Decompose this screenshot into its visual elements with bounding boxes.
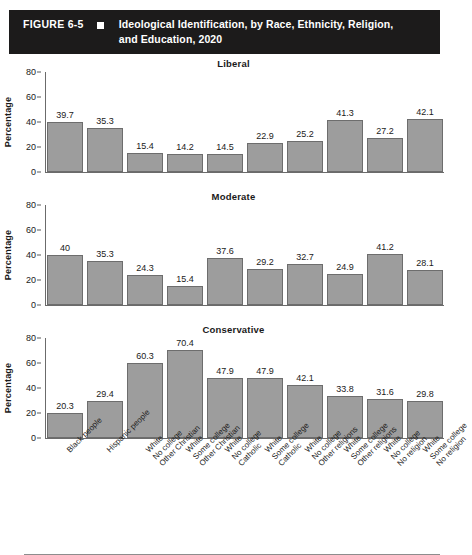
bar-value-label: 24.3 bbox=[136, 263, 154, 273]
bar[interactable] bbox=[127, 153, 163, 172]
y-tick-label: 80 bbox=[26, 200, 36, 210]
figure-title-line-1: Ideological Identification, by Race, Eth… bbox=[119, 17, 393, 32]
bar-value-label: 37.6 bbox=[216, 246, 234, 256]
bar-group: 29.8 bbox=[407, 338, 443, 438]
y-axis-label-liberal: Percentage bbox=[2, 72, 15, 172]
bar[interactable] bbox=[247, 143, 283, 172]
bar-value-label: 70.4 bbox=[176, 338, 194, 348]
bar-value-label: 60.3 bbox=[136, 351, 154, 361]
y-tick-label: 60 bbox=[26, 92, 36, 102]
y-tick-mark bbox=[37, 230, 41, 231]
bar-value-label: 25.2 bbox=[296, 129, 314, 139]
bar[interactable] bbox=[207, 258, 243, 305]
bars-liberal: 39.735.315.414.214.522.925.241.327.242.1 bbox=[47, 72, 443, 172]
bar[interactable] bbox=[407, 270, 443, 305]
bar-group: 42.1 bbox=[407, 72, 443, 172]
bar-group: 27.2 bbox=[367, 72, 403, 172]
y-tick-label: 80 bbox=[26, 333, 36, 343]
y-axis-label-moderate: Percentage bbox=[2, 205, 15, 305]
bar-value-label: 24.9 bbox=[336, 262, 354, 272]
y-axis-label-conservative: Percentage bbox=[2, 338, 15, 438]
bar-value-label: 31.6 bbox=[376, 387, 394, 397]
bar[interactable] bbox=[367, 254, 403, 306]
bar-value-label: 32.7 bbox=[296, 252, 314, 262]
bar-group: 20.3 bbox=[47, 338, 83, 438]
bar-value-label: 29.4 bbox=[96, 389, 114, 399]
y-axis-line-liberal bbox=[45, 72, 46, 172]
y-tick-mark bbox=[37, 72, 41, 73]
panel-liberal: Liberal Percentage 020406080 39.735.315.… bbox=[0, 58, 449, 180]
y-axis-line-conservative bbox=[45, 338, 46, 438]
figure-title-line-2: and Education, 2020 bbox=[119, 32, 393, 47]
bar-value-label: 35.3 bbox=[96, 249, 114, 259]
bar-value-label: 15.4 bbox=[176, 274, 194, 284]
panel-title-moderate: Moderate bbox=[0, 191, 449, 202]
bar-value-label: 41.3 bbox=[336, 108, 354, 118]
bar[interactable] bbox=[407, 119, 443, 172]
y-tick-label: 60 bbox=[26, 225, 36, 235]
panel-title-conservative: Conservative bbox=[0, 324, 449, 335]
chart-area: Liberal Percentage 020406080 39.735.315.… bbox=[0, 58, 449, 518]
bar[interactable] bbox=[207, 154, 243, 172]
plot-area-liberal: Percentage 020406080 39.735.315.414.214.… bbox=[0, 72, 449, 180]
bar[interactable] bbox=[167, 154, 203, 172]
bar-group: 14.2 bbox=[167, 72, 203, 172]
bar-group: 14.5 bbox=[207, 72, 243, 172]
bar[interactable] bbox=[47, 255, 83, 305]
bar-group: 22.9 bbox=[247, 72, 283, 172]
bar-group: 37.6 bbox=[207, 205, 243, 305]
bar-group: 41.3 bbox=[327, 72, 363, 172]
bar-group: 29.2 bbox=[247, 205, 283, 305]
bar-value-label: 42.1 bbox=[416, 107, 434, 117]
y-tick-mark bbox=[37, 363, 41, 364]
bar[interactable] bbox=[247, 269, 283, 306]
bar[interactable] bbox=[287, 141, 323, 173]
bar[interactable] bbox=[327, 274, 363, 305]
y-tick-label: 0 bbox=[31, 167, 36, 177]
bar-group: 35.3 bbox=[87, 72, 123, 172]
x-axis-labels: Black peopleHispanic peopleWhiteNo colle… bbox=[47, 446, 443, 518]
square-bullet-icon bbox=[97, 22, 104, 29]
bar-group: 15.4 bbox=[127, 72, 163, 172]
bar-group: 25.2 bbox=[287, 72, 323, 172]
bar[interactable] bbox=[87, 261, 123, 305]
y-tick-label: 20 bbox=[26, 142, 36, 152]
bar[interactable] bbox=[367, 138, 403, 172]
bar[interactable] bbox=[167, 286, 203, 305]
bar[interactable] bbox=[47, 122, 83, 172]
bar[interactable] bbox=[327, 120, 363, 172]
y-tick-mark bbox=[37, 147, 41, 148]
y-tick-mark bbox=[37, 255, 41, 256]
y-tick-label: 0 bbox=[31, 433, 36, 443]
bar-value-label: 35.3 bbox=[96, 116, 114, 126]
bar-group: 28.1 bbox=[407, 205, 443, 305]
y-tick-mark bbox=[37, 413, 41, 414]
bar[interactable] bbox=[87, 128, 123, 172]
bar-value-label: 15.4 bbox=[136, 141, 154, 151]
y-tick-label: 0 bbox=[31, 300, 36, 310]
panel-title-liberal: Liberal bbox=[0, 58, 449, 69]
bar-value-label: 20.3 bbox=[56, 401, 74, 411]
y-axis-ticks-moderate: 020406080 bbox=[15, 205, 41, 305]
y-tick-mark bbox=[37, 122, 41, 123]
y-axis-ticks-conservative: 020406080 bbox=[15, 338, 41, 438]
y-tick-label: 40 bbox=[26, 250, 36, 260]
bar[interactable] bbox=[127, 275, 163, 305]
y-tick-label: 60 bbox=[26, 358, 36, 368]
figure-title: Ideological Identification, by Race, Eth… bbox=[119, 17, 393, 46]
bar-value-label: 22.9 bbox=[256, 131, 274, 141]
bar-value-label: 39.7 bbox=[56, 110, 74, 120]
bar-value-label: 14.5 bbox=[216, 142, 234, 152]
bar-value-label: 29.2 bbox=[256, 257, 274, 267]
y-axis-ticks-liberal: 020406080 bbox=[15, 72, 41, 172]
bar-value-label: 47.9 bbox=[256, 366, 274, 376]
y-tick-label: 20 bbox=[26, 275, 36, 285]
bar-group: 39.7 bbox=[47, 72, 83, 172]
x-axis-line-liberal bbox=[45, 172, 444, 173]
y-tick-label: 40 bbox=[26, 117, 36, 127]
y-tick-label: 20 bbox=[26, 408, 36, 418]
y-tick-mark bbox=[37, 338, 41, 339]
bar-value-label: 33.8 bbox=[336, 384, 354, 394]
bar[interactable] bbox=[287, 264, 323, 305]
y-tick-label: 80 bbox=[26, 67, 36, 77]
